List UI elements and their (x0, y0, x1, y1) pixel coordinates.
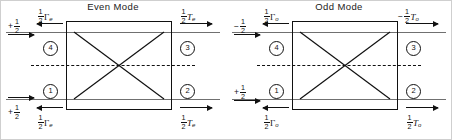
port-marker-3-odd: 3 (406, 41, 421, 56)
fraction-bottom-left-reflected-odd: 12 (264, 114, 270, 131)
sign-bottom-left-incident-odd: + (234, 87, 239, 97)
port-marker-2-odd: 2 (406, 84, 421, 99)
fraction-bottom-left-reflected-even: 12 (38, 114, 44, 131)
port-marker-4-odd: 4 (269, 41, 284, 56)
arrow-bottom-left-incident-odd (234, 100, 260, 101)
fraction-top-left-incident-odd: 12 (240, 18, 246, 35)
label-bottom-left-incident-odd: +12 (234, 84, 246, 101)
arrow-bottom-right-transmitted-odd (406, 107, 438, 108)
label-bottom-left-reflected-even: 12Γe (37, 114, 53, 131)
fraction-bottom-right-transmitted-even: 12 (181, 114, 187, 131)
label-bottom-left-reflected-odd: 12Γo (263, 114, 279, 131)
arrow-top-right-transmitted-odd (406, 23, 438, 24)
arrow-top-left-incident-odd (234, 34, 260, 35)
port-marker-3-even: 3 (180, 41, 195, 56)
fraction-bottom-left-incident-even: 12 (14, 104, 20, 121)
label-bottom-right-transmitted-odd: 12To (406, 114, 421, 131)
port-marker-2-even: 2 (180, 84, 195, 99)
arrow-top-right-transmitted-even (180, 23, 212, 24)
symmetry-plane-odd (257, 65, 421, 66)
subscript-top-right-even: e (192, 16, 195, 22)
arrow-bottom-left-reflected-even (37, 107, 63, 108)
arrow-top-left-reflected-even (37, 23, 63, 24)
fraction-bottom-left-incident-odd: 12 (240, 84, 246, 101)
subscript-top-right-odd: o (415, 16, 418, 22)
label-bottom-right-transmitted-even: 12Te (180, 114, 195, 131)
figure-canvas: Even Mode 4 3 1 2 +12 12Γe 12Te (0, 0, 452, 140)
sign-top-left-incident-odd: − (234, 21, 239, 31)
label-top-left-incident-even: +12 (8, 18, 20, 35)
port-marker-1-odd: 1 (269, 84, 284, 99)
fraction-bottom-right-transmitted-odd: 12 (407, 114, 413, 131)
sign-bottom-left-incident-even: + (8, 107, 13, 117)
arrow-bottom-right-transmitted-even (180, 107, 212, 108)
subscript-bottom-left-even: e (49, 122, 52, 128)
subscript-top-left-even: e (49, 16, 52, 22)
subscript-top-left-odd: o (275, 16, 278, 22)
arrow-top-left-incident-even (8, 34, 34, 35)
subscript-bottom-left-odd: o (275, 122, 278, 128)
port-marker-1-even: 1 (43, 84, 58, 99)
subscript-bottom-right-even: e (192, 122, 195, 128)
panel-odd-mode: Odd Mode 4 3 1 2 −12 12Γo −12To +12 (226, 0, 452, 140)
arrow-bottom-left-reflected-odd (263, 107, 289, 108)
fraction-top-left-incident-even: 12 (14, 18, 20, 35)
port-marker-4-even: 4 (43, 41, 58, 56)
sign-top-left-incident-even: + (8, 21, 13, 31)
label-top-left-incident-odd: −12 (234, 18, 246, 35)
sign-top-right-transmitted-odd: − (398, 11, 403, 21)
subscript-bottom-right-odd: o (418, 122, 421, 128)
symmetry-plane-even (31, 65, 195, 66)
arrow-top-left-reflected-odd (263, 23, 289, 24)
panel-even-mode: Even Mode 4 3 1 2 +12 12Γe 12Te (0, 0, 226, 140)
label-bottom-left-incident-even: +12 (8, 104, 20, 121)
arrow-bottom-left-incident-even (8, 97, 34, 98)
